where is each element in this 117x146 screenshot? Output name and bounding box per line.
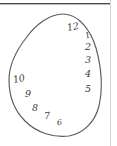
clock-numeral-4: 4: [85, 69, 91, 78]
clock-numeral-7: 7: [44, 111, 51, 121]
clock-numeral-3: 3: [85, 55, 91, 64]
clock-numeral-8: 8: [32, 103, 38, 112]
clock-drawing-figure: 1212345678910: [0, 0, 117, 146]
clock-numeral-10: 10: [12, 73, 25, 84]
clock-numeral-2: 2: [85, 42, 91, 51]
clock-numeral-5: 5: [85, 84, 91, 93]
clock-numeral-9: 9: [25, 89, 31, 98]
clock-numeral-12: 12: [66, 21, 79, 32]
